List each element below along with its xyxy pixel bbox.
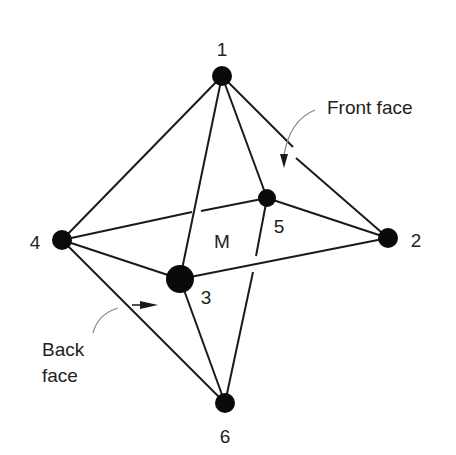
edge-4-6 xyxy=(62,240,225,403)
vertex-label-5: 5 xyxy=(274,216,285,237)
edge-4-5-b xyxy=(201,198,267,211)
vertex-label-1: 1 xyxy=(217,39,228,60)
back-face-pointer-curve xyxy=(93,308,118,333)
vertex-label-3: 3 xyxy=(201,287,212,308)
edge-5-2 xyxy=(267,198,388,238)
front-face-arrow-icon xyxy=(280,154,288,168)
edge-5-6-b xyxy=(225,272,253,403)
front-face-label: Front face xyxy=(327,97,413,118)
back-face-label-line1: Back xyxy=(42,339,85,360)
vertex-4 xyxy=(52,230,72,250)
back-face-annotation: Back face xyxy=(42,301,158,386)
vertex-label-2: 2 xyxy=(411,230,422,251)
vertex-3 xyxy=(166,265,194,293)
vertex-1 xyxy=(212,66,232,86)
vertex-2 xyxy=(378,228,398,248)
vertex-5 xyxy=(258,189,276,207)
diagram-canvas: 1 2 3 4 5 6 M Front face Back face xyxy=(0,0,456,455)
vertex-label-4: 4 xyxy=(30,232,41,253)
edge-1-4 xyxy=(62,76,222,240)
back-face-arrow-icon xyxy=(140,301,158,309)
edge-4-5-a xyxy=(62,212,192,240)
edge-4-3 xyxy=(62,240,180,279)
vertex-label-6: 6 xyxy=(220,426,231,447)
vertex-6 xyxy=(215,393,235,413)
back-face-label-line2: face xyxy=(42,365,78,386)
front-face-pointer-curve xyxy=(284,110,315,155)
front-face-annotation: Front face xyxy=(280,97,413,168)
edge-1-2-b xyxy=(296,158,388,238)
octahedron-diagram: 1 2 3 4 5 6 M Front face Back face xyxy=(0,0,456,455)
edge-1-5 xyxy=(222,76,267,198)
center-label: M xyxy=(214,231,230,252)
edge-3-2 xyxy=(180,238,388,279)
edge-1-2-a xyxy=(222,76,293,147)
